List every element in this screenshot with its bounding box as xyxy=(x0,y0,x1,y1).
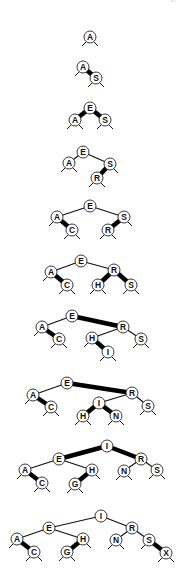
tree-step-8: EACRIHNS xyxy=(25,377,156,425)
node-key-label: E xyxy=(56,454,62,464)
node-key-label: G xyxy=(64,547,71,557)
tree-step-4: EASR xyxy=(61,146,118,187)
tree-node-E: E xyxy=(66,310,78,322)
node-key-label: I xyxy=(106,441,108,451)
red-link-E-R xyxy=(67,383,132,393)
node-key-label: H xyxy=(80,534,86,544)
tree-step-7: EACRHIS xyxy=(34,310,149,361)
node-key-label: I xyxy=(100,511,102,521)
node-key-label: S xyxy=(121,212,127,222)
tree-node-S: S xyxy=(104,158,116,170)
tree-node-N: N xyxy=(110,410,122,422)
tree-node-E: E xyxy=(84,200,96,212)
tree-node-S: S xyxy=(99,114,111,126)
node-key-label: R xyxy=(120,322,126,332)
red-link-E-R xyxy=(72,316,123,327)
tree-step-1: A xyxy=(82,31,98,46)
node-key-label: A xyxy=(54,212,60,222)
tree-node-A: A xyxy=(77,61,89,73)
tree-node-I: I xyxy=(101,440,113,452)
node-key-label: R xyxy=(138,454,144,464)
tree-node-S: S xyxy=(143,534,155,546)
tree-node-S: S xyxy=(151,464,163,476)
node-key-label: E xyxy=(87,103,93,113)
tree-node-H: H xyxy=(86,332,98,344)
node-key-label: I xyxy=(98,398,100,408)
tree-node-A: A xyxy=(36,321,48,333)
black-link-I-E xyxy=(49,516,101,528)
node-key-label: N xyxy=(113,535,119,545)
tree-node-E: E xyxy=(84,102,96,114)
tree-node-C: C xyxy=(45,401,57,413)
node-key-label: N xyxy=(121,466,127,476)
node-key-label: S xyxy=(146,535,152,545)
node-key-label: A xyxy=(30,390,36,400)
tree-node-A: A xyxy=(45,266,57,278)
tree-node-N: N xyxy=(110,534,122,546)
tree-step-10: IEACHGRNSX xyxy=(9,510,174,562)
node-key-label: E xyxy=(69,311,75,321)
node-key-label: R xyxy=(111,265,117,275)
node-key-label: E xyxy=(78,256,84,266)
node-key-label: H xyxy=(89,465,95,475)
node-key-label: A xyxy=(14,534,20,544)
node-key-label: I xyxy=(107,347,109,357)
node-key-label: H xyxy=(95,280,101,290)
tree-node-S: S xyxy=(125,279,137,291)
tree-node-A: A xyxy=(11,533,23,545)
tree-node-R: R xyxy=(135,453,147,465)
tree-node-A: A xyxy=(63,157,75,169)
node-key-label: S xyxy=(102,115,108,125)
tree-node-R: R xyxy=(108,264,120,276)
tree-step-9: IEACHGRNS xyxy=(17,440,165,493)
tree-node-I: I xyxy=(93,397,105,409)
node-key-label: X xyxy=(163,548,169,558)
tree-node-C: C xyxy=(66,224,78,236)
node-key-label: E xyxy=(64,378,70,388)
tree-node-S: S xyxy=(118,211,130,223)
tree-node-R: R xyxy=(91,172,103,184)
node-key-label: N xyxy=(113,411,119,421)
tree-node-H: H xyxy=(86,464,98,476)
node-key-label: C xyxy=(31,547,37,557)
node-key-label: E xyxy=(87,201,93,211)
tree-diagram-canvas: AASEASEASREACSREACRHSEACRHISEACRIHNSIEAC… xyxy=(0,0,184,581)
node-key-label: C xyxy=(39,478,45,488)
tree-node-G: G xyxy=(69,478,81,490)
node-key-label: S xyxy=(145,401,151,411)
node-key-label: H xyxy=(89,333,95,343)
tree-node-A: A xyxy=(19,464,31,476)
node-key-label: S xyxy=(154,465,160,475)
node-key-label: S xyxy=(107,159,113,169)
tree-node-I: I xyxy=(102,346,114,358)
tree-step-5: EACSR xyxy=(49,200,132,239)
tree-node-E: E xyxy=(75,255,87,267)
node-key-label: A xyxy=(80,62,86,72)
tree-node-R: R xyxy=(117,321,129,333)
tree-node-H: H xyxy=(92,279,104,291)
tree-node-H: H xyxy=(77,533,89,545)
tree-node-R: R xyxy=(102,224,114,236)
tree-step-3: EAS xyxy=(67,102,113,129)
node-key-label: A xyxy=(39,322,45,332)
node-key-label: C xyxy=(48,402,54,412)
node-key-label: C xyxy=(64,280,70,290)
tree-step-6: EACRHS xyxy=(43,255,139,294)
node-key-label: A xyxy=(87,32,93,42)
tree-node-C: C xyxy=(53,333,65,345)
node-key-label: A xyxy=(48,267,54,277)
red-link-I-E xyxy=(59,446,107,459)
tree-node-S: S xyxy=(90,72,102,84)
tree-node-C: C xyxy=(61,279,73,291)
node-key-label: E xyxy=(80,147,86,157)
tree-node-A: A xyxy=(27,389,39,401)
node-key-label: H xyxy=(80,411,86,421)
node-key-label: G xyxy=(72,479,79,489)
node-key-label: S xyxy=(138,334,144,344)
tree-node-N: N xyxy=(118,465,130,477)
node-key-label: S xyxy=(128,280,134,290)
node-key-label: R xyxy=(105,225,111,235)
tree-node-X: X xyxy=(160,547,172,559)
tree-node-A: A xyxy=(51,211,63,223)
page-number: 37 xyxy=(169,0,178,4)
